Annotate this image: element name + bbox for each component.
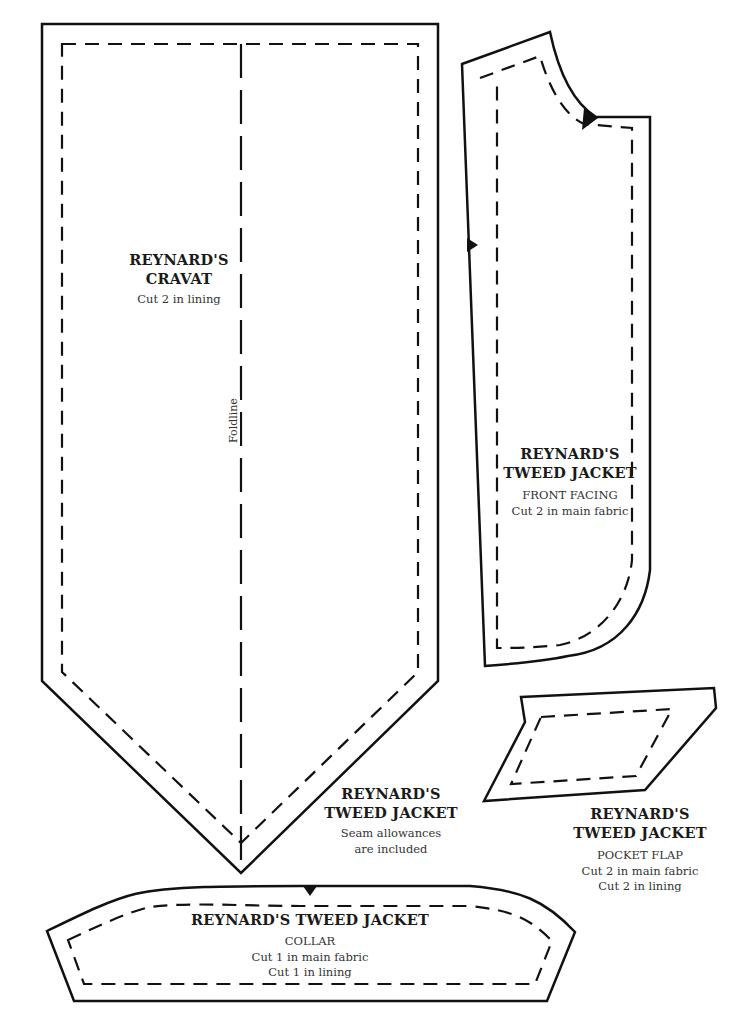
front-facing-cut-1: Cut 2 in main fabric [490, 504, 650, 520]
collar-label: REYNARD'S TWEED JACKET COLLAR Cut 1 in m… [180, 910, 440, 981]
cravat-title-2: CRAVAT [104, 269, 254, 288]
seam-note-2: are included [318, 842, 464, 858]
pocket-flap-cut-1: Cut 2 in main fabric [560, 864, 720, 880]
foldline-label: Foldline [227, 396, 240, 445]
front-facing-title-2: TWEED JACKET [490, 463, 650, 482]
pocket-flap-cut-2: Cut 2 in lining [560, 879, 720, 895]
cravat-label: REYNARD'S CRAVAT Cut 2 in lining [104, 250, 254, 308]
seam-allowance-label: REYNARD'S TWEED JACKET Seam allowances a… [318, 784, 464, 857]
front-facing-piece [462, 32, 650, 666]
front-facing-label: REYNARD'S TWEED JACKET FRONT FACING Cut … [490, 444, 650, 519]
side-notch-icon [467, 238, 478, 252]
seam-note-1: Seam allowances [318, 826, 464, 842]
front-facing-seam-line [480, 56, 632, 648]
pocket-flap-seam-line [511, 709, 672, 784]
collar-cut-1: Cut 1 in main fabric [180, 950, 440, 966]
seam-title-2: TWEED JACKET [318, 803, 464, 822]
pocket-flap-title-2: TWEED JACKET [560, 823, 720, 842]
front-facing-title-1: REYNARD'S [490, 444, 650, 463]
cravat-title-1: REYNARD'S [104, 250, 254, 269]
cravat-cut-note: Cut 2 in lining [104, 292, 254, 308]
seam-title-1: REYNARD'S [318, 784, 464, 803]
collar-part: COLLAR [180, 934, 440, 950]
pocket-flap-part: POCKET FLAP [560, 848, 720, 864]
collar-center-notch-icon [303, 886, 317, 896]
pocket-flap-title-1: REYNARD'S [560, 804, 720, 823]
front-facing-part: FRONT FACING [490, 488, 650, 504]
collar-title: REYNARD'S TWEED JACKET [180, 910, 440, 929]
pocket-flap-label: REYNARD'S TWEED JACKET POCKET FLAP Cut 2… [560, 804, 720, 895]
cravat-piece [42, 24, 438, 873]
collar-cut-2: Cut 1 in lining [180, 965, 440, 981]
pocket-flap-piece [484, 688, 716, 801]
